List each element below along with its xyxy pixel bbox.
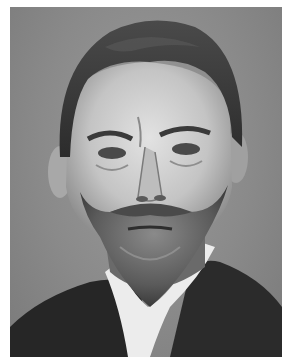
portrait-photo: [10, 7, 282, 357]
right-eye: [172, 143, 200, 155]
left-eye: [98, 147, 126, 159]
portrait-illustration: [10, 7, 282, 357]
